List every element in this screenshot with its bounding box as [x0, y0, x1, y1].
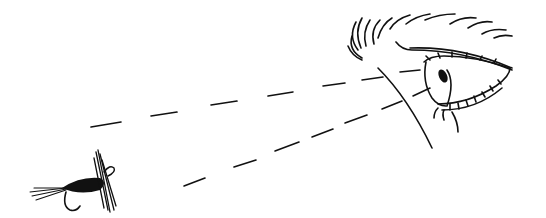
fishing-fly-icon: [30, 150, 116, 212]
illustration: [0, 0, 546, 218]
eyebrow-icon: [348, 14, 512, 60]
sight-line-upper: [91, 70, 420, 127]
eye-icon: [378, 42, 512, 148]
